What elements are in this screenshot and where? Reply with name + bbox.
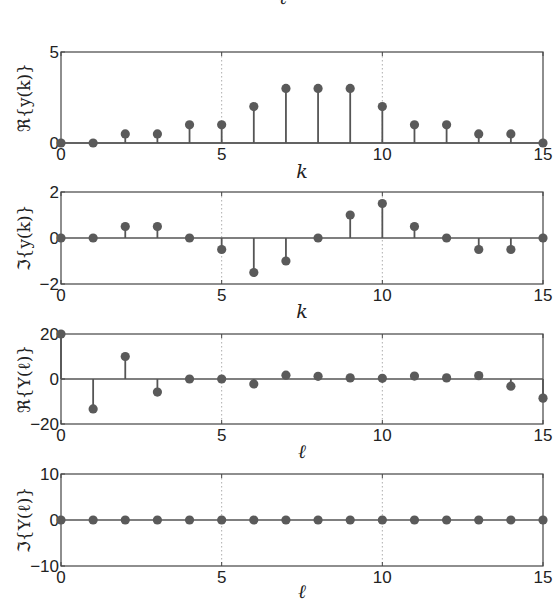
x-axis-label: k <box>296 160 308 182</box>
stem-marker <box>217 515 226 524</box>
stem-marker <box>217 120 226 129</box>
axes-frame <box>61 52 543 143</box>
x-tick-label: 5 <box>217 568 226 587</box>
stem-marker <box>346 515 355 524</box>
stem-marker <box>89 138 98 147</box>
stem-marker <box>506 129 515 138</box>
x-tick-label: 15 <box>534 568 553 587</box>
y-tick-label: 0 <box>50 370 59 389</box>
stem-marker <box>442 233 451 242</box>
stem-marker <box>249 379 258 388</box>
stem-marker <box>410 120 419 129</box>
x-tick-label: 15 <box>534 286 553 305</box>
stem-marker <box>346 373 355 382</box>
stem-marker <box>153 515 162 524</box>
stem-marker <box>56 233 65 242</box>
stem-marker <box>185 233 194 242</box>
x-tick-label: 5 <box>217 426 226 445</box>
stem-marker <box>89 233 98 242</box>
stem-marker <box>281 84 290 93</box>
stem-marker <box>313 372 322 381</box>
stem-marker <box>410 515 419 524</box>
y-tick-label: −20 <box>30 415 59 434</box>
stem-marker <box>121 515 130 524</box>
stem-marker <box>121 352 130 361</box>
stem-marker <box>185 515 194 524</box>
stem-marker <box>313 233 322 242</box>
stem-marker <box>153 222 162 231</box>
stem-marker <box>506 515 515 524</box>
stem-marker <box>410 222 419 231</box>
y-axis-label: ℜ{Y(ℓ)} <box>14 345 34 413</box>
x-axis-label: ℓ <box>298 440 306 462</box>
x-axis-label: ℓ <box>298 580 306 602</box>
stem-marker <box>89 515 98 524</box>
stem-marker <box>185 120 194 129</box>
stem-marker <box>249 102 258 111</box>
stem-marker <box>378 374 387 383</box>
stem-marker <box>56 329 65 338</box>
x-tick-label: 10 <box>373 145 392 164</box>
stem-marker <box>506 245 515 254</box>
stem-marker <box>121 129 130 138</box>
x-tick-label: 10 <box>373 568 392 587</box>
stem-marker <box>281 515 290 524</box>
y-tick-label: 5 <box>50 43 59 62</box>
stem-marker <box>474 371 483 380</box>
stem-marker <box>249 515 258 524</box>
x-tick-label: 5 <box>217 145 226 164</box>
stem-marker <box>442 120 451 129</box>
stem-marker <box>442 515 451 524</box>
y-tick-label: −2 <box>40 275 59 294</box>
stem-marker <box>217 245 226 254</box>
stem-marker <box>313 84 322 93</box>
stem-marker <box>474 515 483 524</box>
stem-marker <box>121 222 130 231</box>
stem-marker <box>378 515 387 524</box>
y-tick-label: −10 <box>30 557 59 576</box>
stem-marker <box>153 129 162 138</box>
stem-marker <box>474 129 483 138</box>
stem-marker <box>474 245 483 254</box>
subplot-4: 051015−10010ℓℑ{Y(ℓ)} <box>14 465 552 602</box>
stem-marker <box>346 210 355 219</box>
x-tick-label: 15 <box>534 426 553 445</box>
stem-marker <box>153 387 162 396</box>
stem-marker <box>538 515 547 524</box>
x-axis-label: k <box>296 300 308 322</box>
stem-marker <box>538 138 547 147</box>
x-tick-label: 10 <box>373 286 392 305</box>
y-tick-label: 2 <box>50 183 59 202</box>
x-tick-label: 15 <box>534 145 553 164</box>
x-tick-label: 5 <box>217 286 226 305</box>
subplot-1: 05101505kℜ{y(k)} <box>14 43 552 182</box>
subplot-3: 051015−20020ℓℜ{Y(ℓ)} <box>14 325 552 462</box>
stem-marker <box>185 374 194 383</box>
y-tick-label: 10 <box>40 465 59 484</box>
subplots: 05101505kℜ{y(k)}051015−202kℑ{y(k)}051015… <box>14 43 552 602</box>
stem-marker <box>442 373 451 382</box>
subplot-2: 051015−202kℑ{y(k)} <box>14 183 552 322</box>
stem-marker <box>313 515 322 524</box>
figure: ℓ 05101505kℜ{y(k)}051015−202kℑ{y(k)}0510… <box>0 0 554 604</box>
stem-marker <box>346 84 355 93</box>
stem-marker <box>538 233 547 242</box>
top-cropped-label: ℓ <box>279 0 287 8</box>
stem-marker <box>56 515 65 524</box>
stem-marker <box>378 102 387 111</box>
y-axis-label: ℑ{Y(ℓ)} <box>14 487 34 553</box>
y-axis-label: ℜ{y(k)} <box>14 63 34 132</box>
stem-marker <box>56 138 65 147</box>
stem-marker <box>249 268 258 277</box>
y-axis-label: ℑ{y(k)} <box>14 205 34 272</box>
stem-marker <box>217 374 226 383</box>
stem-marker <box>410 371 419 380</box>
stem-marker <box>281 371 290 380</box>
stem-marker <box>538 394 547 403</box>
y-tick-label: 20 <box>40 325 59 344</box>
stem-marker <box>506 382 515 391</box>
stem-marker <box>378 199 387 208</box>
stem-marker <box>89 404 98 413</box>
stem-marker <box>281 256 290 265</box>
x-tick-label: 10 <box>373 426 392 445</box>
